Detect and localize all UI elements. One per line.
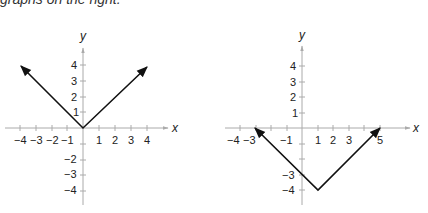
x-tick-label: 3 <box>128 134 134 146</box>
x-tick-label: 1 <box>315 134 321 146</box>
x-tick-label: −1 <box>61 134 74 146</box>
y-tick-label: 1 <box>292 107 298 119</box>
x-tick-label: 4 <box>144 134 150 146</box>
x-tick-label: −1 <box>280 134 293 146</box>
x-tick-label: 1 <box>96 134 102 146</box>
y-tick-label: 2 <box>71 91 77 103</box>
y-tick-label: −4 <box>282 184 295 196</box>
graphs: x y −4 −3 −2 −1 1 2 3 4 4 3 2 1 −2 −3 −4 <box>0 0 428 213</box>
x-tick-label: −4 <box>227 134 240 146</box>
y-tick-label: 3 <box>290 76 296 88</box>
y-tick-label: −3 <box>282 169 295 181</box>
y-tick-label: 4 <box>290 60 296 72</box>
x-tick-label: −3 <box>243 134 256 146</box>
x-tick-label: 2 <box>330 134 336 146</box>
x-tick-label: 2 <box>112 134 118 146</box>
y-tick-label: −3 <box>64 168 77 180</box>
y-tick-label: 4 <box>71 59 77 71</box>
x-tick-label: 5 <box>377 134 383 146</box>
right-graph: x y −4 −3 −1 1 2 3 5 4 3 2 1 −3 −4 <box>225 28 420 205</box>
y-tick-label: 2 <box>290 91 296 103</box>
x-tick-label: −3 <box>30 134 43 146</box>
y-axis-label: y <box>79 29 87 43</box>
x-tick-label: −4 <box>14 134 27 146</box>
x-tick-label: −2 <box>46 134 59 146</box>
y-axis-label: y <box>298 28 306 42</box>
y-tick-label: 1 <box>73 106 79 118</box>
y-tick-label: 3 <box>71 75 77 87</box>
x-axis-label: x <box>412 121 420 135</box>
x-axis-label: x <box>171 121 179 135</box>
left-graph: x y −4 −3 −2 −1 1 2 3 4 4 3 2 1 −2 −3 −4 <box>5 29 179 205</box>
x-tick-label: 3 <box>346 134 352 146</box>
y-tick-label: −4 <box>64 184 77 196</box>
y-tick-label: −2 <box>64 153 77 165</box>
